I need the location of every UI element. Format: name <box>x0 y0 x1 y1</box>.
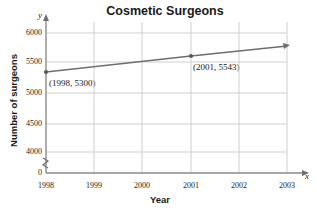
vertical-gridlines <box>94 22 287 173</box>
data-series-line <box>46 43 290 72</box>
chart-container: Cosmetic Surgeons Number of surgeons Yea… <box>0 0 317 210</box>
horizontal-gridlines <box>46 33 287 152</box>
y-axis-break-icon <box>43 158 48 168</box>
x-axis-line <box>46 170 309 176</box>
plot-area <box>0 0 317 210</box>
data-point-marker-2001 <box>189 54 193 58</box>
data-point-marker-1998 <box>44 70 48 74</box>
